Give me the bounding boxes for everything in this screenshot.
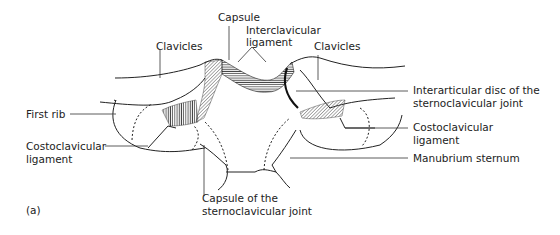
label-costoclavicular-left-line2: ligament xyxy=(26,153,72,166)
label-capsule-joint-line2: sternoclavicular joint xyxy=(202,205,312,218)
left-capsule xyxy=(196,60,222,122)
label-first-rib: First rib xyxy=(26,108,65,121)
right-costoclavicular-ligament xyxy=(300,100,345,119)
label-interclavicular-line2: ligament xyxy=(246,36,292,49)
panel-label: (a) xyxy=(26,204,41,217)
label-costoclavicular-right-line1: Costoclavicular xyxy=(413,121,493,134)
label-costoclavicular-left-line1: Costoclavicular xyxy=(26,140,106,153)
label-costoclavicular-right-line2: ligament xyxy=(413,134,459,147)
label-interarticular-disc-line1: Interarticular disc of the xyxy=(413,84,540,97)
label-clavicles-right: Clavicles xyxy=(314,40,360,53)
label-interclavicular-line1: Interclavicular xyxy=(246,24,321,37)
label-capsule: Capsule xyxy=(218,11,260,24)
right-clavicle xyxy=(290,57,405,68)
label-interarticular-disc-line2: sternoclavicular joint xyxy=(413,97,523,110)
interclavicular-ligament xyxy=(222,60,294,92)
label-clavicles-left: Clavicles xyxy=(156,40,202,53)
label-manubrium-sternum: Manubrium sternum xyxy=(413,152,520,165)
left-costoclavicular-ligament xyxy=(162,100,198,126)
right-first-rib xyxy=(300,115,402,150)
label-capsule-joint-line1: Capsule of the xyxy=(202,192,278,205)
